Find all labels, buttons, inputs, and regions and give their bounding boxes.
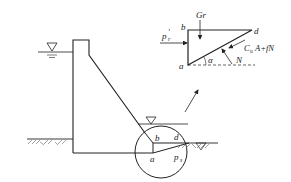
label-p-main: p [173,152,179,162]
label-a-main: a [150,154,155,164]
label-gr: Gr [196,10,206,20]
label-p-sub-main: s [180,157,183,163]
dam-body [73,40,145,153]
label-friction-rest: A+fN [254,43,275,53]
upstream-water-level [38,43,73,58]
water-level-triangle-icon [146,117,156,124]
label-p-prime: p [161,31,167,41]
upstream-ground [27,139,73,145]
label-alpha: α [208,55,213,65]
label-friction-sub: u [250,48,253,54]
inset-free-body: b d a Gr p ′ r C u A+fN α N [160,10,275,71]
label-p-prime-sub: r [168,36,171,42]
water-level-triangle-icon [47,43,57,51]
dam-diagram: b d a p s b d a Gr p ′ r C u A+fN α N [0,0,291,182]
label-b-main: b [155,133,160,143]
detail-circle: b d a p s [135,117,218,178]
label-a: a [179,61,184,71]
pointer-arrow [185,90,198,112]
label-d-main: d [174,132,179,142]
label-d: d [254,26,259,36]
label-n: N [235,55,243,65]
label-b: b [181,22,186,32]
